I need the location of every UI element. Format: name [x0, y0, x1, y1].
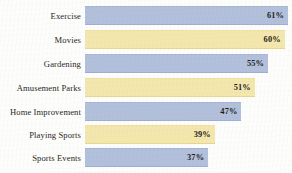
- bar[interactable]: 61%: [85, 6, 288, 25]
- bar-value-label: 60%: [264, 35, 281, 44]
- bar[interactable]: 39%: [85, 125, 215, 144]
- bar-row: Amusement Parks 51%: [0, 78, 292, 97]
- bar-track: 61%: [85, 6, 292, 25]
- bar[interactable]: 37%: [85, 148, 208, 167]
- bar[interactable]: 51%: [85, 78, 255, 97]
- bar-value-label: 55%: [247, 59, 264, 68]
- bar-value-label: 47%: [220, 107, 237, 116]
- bar[interactable]: 60%: [85, 30, 285, 49]
- category-label: Gardening: [0, 59, 85, 69]
- bar-row: Movies 60%: [0, 30, 292, 49]
- bar-track: 39%: [85, 125, 292, 144]
- category-label: Exercise: [0, 11, 85, 21]
- category-label: Movies: [0, 35, 85, 45]
- category-label: Playing Sports: [0, 130, 85, 140]
- bar-track: 60%: [85, 30, 292, 49]
- bar[interactable]: 47%: [85, 102, 241, 121]
- bar-value-label: 61%: [267, 11, 284, 20]
- bar-value-label: 39%: [194, 130, 211, 139]
- bar-row: Home Improvement 47%: [0, 102, 292, 121]
- bar-value-label: 37%: [187, 153, 204, 162]
- bar-row: Gardening 55%: [0, 54, 292, 73]
- bar[interactable]: 55%: [85, 54, 268, 73]
- category-label: Home Improvement: [0, 107, 85, 117]
- chart-plot-area: Exercise 61% Movies 60% Gardening 55%: [0, 0, 292, 173]
- bar-track: 47%: [85, 102, 292, 121]
- bar-track: 55%: [85, 54, 292, 73]
- bar-row: Exercise 61%: [0, 6, 292, 25]
- bar-track: 51%: [85, 78, 292, 97]
- bar-row: Playing Sports 39%: [0, 125, 292, 144]
- category-label: Sports Events: [0, 153, 85, 163]
- bar-row: Sports Events 37%: [0, 148, 292, 167]
- horizontal-bar-chart: Exercise 61% Movies 60% Gardening 55%: [0, 0, 292, 173]
- category-label: Amusement Parks: [0, 83, 85, 93]
- bar-value-label: 51%: [234, 83, 251, 92]
- bar-track: 37%: [85, 148, 292, 167]
